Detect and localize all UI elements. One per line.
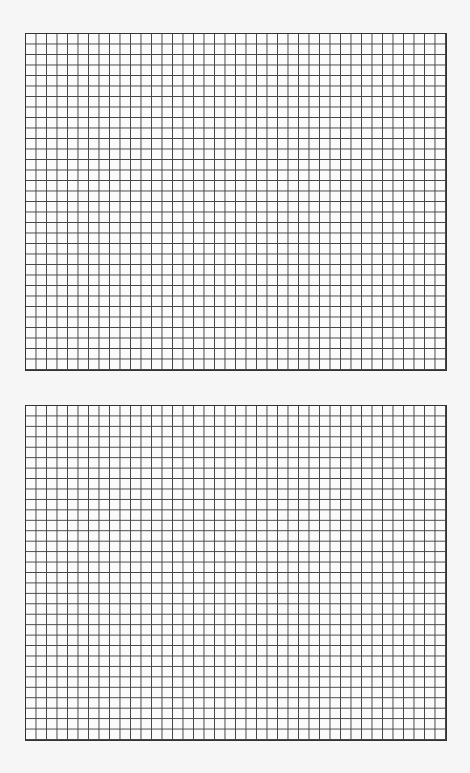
top-graph-grid [25, 33, 447, 371]
bottom-graph-grid [25, 405, 447, 741]
graph-paper-page [0, 0, 470, 773]
